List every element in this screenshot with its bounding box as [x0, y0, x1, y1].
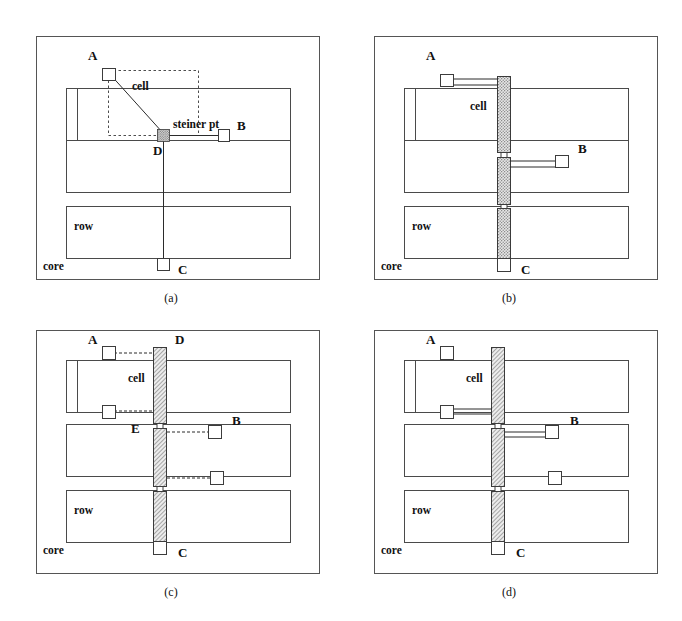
panel-d-pin-b: [546, 426, 559, 439]
panel-a-label-c: C: [178, 262, 187, 277]
panel-b-feedthrough-3: [498, 209, 511, 261]
panel-a-pin-b: [219, 130, 230, 142]
panel-b-label-row: row: [412, 220, 432, 232]
panel-b-feedthrough-1: [498, 77, 511, 153]
panel-c-label-c: C: [178, 545, 187, 560]
panel-b-label-b: B: [578, 141, 587, 156]
panel-d-feedthrough-1: [492, 348, 505, 424]
panel-d-label-core: core: [381, 544, 402, 556]
panel-b-pin-a: [441, 75, 454, 87]
panel-d-pin-a: [441, 347, 454, 360]
panel-a-row-3: [67, 207, 291, 259]
panel-a-label-steiner-pt: steiner pt: [173, 118, 219, 131]
panel-d-pin-c: [492, 542, 505, 555]
panel-b-label-core: core: [381, 260, 402, 272]
panel-c-caption: (c): [164, 585, 177, 599]
panel-b-via-2: [501, 205, 507, 209]
panel-c-row-3: [67, 491, 291, 543]
panel-a-caption: (a): [164, 291, 177, 305]
panel-d-pin-row2-bottom: [549, 472, 562, 485]
panel-c-feedthrough-1: [154, 348, 167, 424]
panel-b-label-a: A: [426, 48, 436, 63]
panel-c-row-1: [67, 361, 291, 413]
panel-d-feedthrough-2: [492, 429, 505, 487]
panel-b-label-cell: cell: [470, 100, 487, 112]
panel-a-pin-c: [158, 259, 170, 271]
panel-a-label-row: row: [74, 220, 94, 232]
panel-d-label-a: A: [426, 332, 436, 347]
panel-b-via-1: [501, 153, 507, 158]
panel-a-label-b: B: [237, 118, 246, 133]
panel-a-pin-a: [103, 69, 116, 81]
panel-d-via-2: [495, 487, 501, 492]
panel-c-label-d: D: [175, 332, 184, 347]
panel-c-label-b: B: [232, 413, 241, 428]
panel-d-label-row: row: [412, 504, 432, 516]
panel-c-pin-a: [103, 347, 116, 360]
panel-c-label-e: E: [131, 421, 140, 436]
panel-c-label-cell: cell: [128, 372, 145, 384]
panel-b-feedthrough-2: [498, 158, 511, 205]
panel-c-pin-cell-bottom: [103, 406, 116, 419]
panel-d-via-1: [495, 424, 501, 429]
panel-a-label-a: A: [88, 48, 98, 63]
figure-root: A B C D steiner pt cell row core (a): [0, 0, 682, 621]
panel-b-label-c: C: [521, 262, 530, 277]
panel-a-steiner-point: [158, 130, 170, 142]
panel-c-label-row: row: [74, 504, 94, 516]
panel-c-pin-c: [154, 542, 167, 555]
panel-c-feedthrough-3: [154, 492, 167, 544]
panel-d-label-b: B: [570, 413, 579, 428]
panel-c-pin-b: [209, 426, 222, 439]
panel-b-pin-b: [556, 156, 569, 168]
panel-a-row-2: [67, 141, 291, 193]
panel-c-feedthrough-2: [154, 429, 167, 487]
figure-svg: A B C D steiner pt cell row core (a): [0, 0, 682, 621]
panel-a-label-d: D: [153, 143, 162, 158]
panel-c-via-1: [157, 424, 163, 429]
panel-c-label-core: core: [43, 544, 64, 556]
panel-d-caption: (d): [502, 585, 516, 599]
panel-c-pin-row2-bottom: [211, 472, 224, 485]
panel-b-caption: (b): [502, 291, 516, 305]
panel-a-label-core: core: [43, 260, 64, 272]
panel-d-row-3: [405, 491, 629, 543]
panel-d-pin-cell-bottom: [441, 406, 454, 419]
panel-d-row-1: [405, 361, 629, 413]
panel-b-row-1: [405, 89, 629, 141]
panel-c-label-a: A: [88, 332, 98, 347]
panel-a-row-1: [67, 89, 291, 141]
panel-b-pin-c: [498, 259, 511, 272]
panel-a-label-cell: cell: [132, 80, 149, 92]
panel-d-feedthrough-3: [492, 492, 505, 544]
panel-c-via-2: [157, 487, 163, 492]
panel-d-label-cell: cell: [466, 372, 483, 384]
panel-d-label-c: C: [516, 545, 525, 560]
panel-b-row-3: [405, 207, 629, 259]
